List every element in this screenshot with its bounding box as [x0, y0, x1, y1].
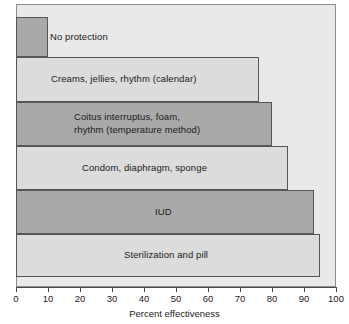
x-axis-tick-label: 30 [107, 293, 118, 304]
bar-label: Condom, diaphragm, sponge [82, 162, 207, 175]
bar-chart-figure: No protectionCreams, jellies, rhythm (ca… [0, 0, 349, 324]
x-axis-tick-label: 80 [267, 293, 278, 304]
x-axis-tick-label: 100 [328, 293, 344, 304]
x-axis-tick [48, 287, 49, 292]
bars-layer: No protectionCreams, jellies, rhythm (ca… [0, 0, 349, 324]
x-axis-tick-label: 40 [139, 293, 150, 304]
x-axis-tick [16, 287, 17, 292]
x-axis-tick [208, 287, 209, 292]
x-axis-tick [240, 287, 241, 292]
x-axis-tick [176, 287, 177, 292]
bar-label: Coitus interruptus, foam, rhythm (temper… [74, 111, 200, 136]
x-axis-tick-label: 20 [75, 293, 86, 304]
x-axis-tick-label: 0 [13, 293, 18, 304]
bar-label: IUD [155, 206, 172, 219]
x-axis-tick [112, 287, 113, 292]
bar-label: Creams, jellies, rhythm (calendar) [51, 73, 196, 86]
bar-label: No protection [50, 31, 108, 44]
x-axis-tick-label: 10 [43, 293, 54, 304]
x-axis-tick [80, 287, 81, 292]
x-axis-tick [272, 287, 273, 292]
bar [16, 17, 48, 57]
x-axis-tick-label: 50 [171, 293, 182, 304]
x-axis-tick [144, 287, 145, 292]
x-axis-tick [336, 287, 337, 292]
bar-label: Sterilization and pill [124, 249, 208, 262]
x-axis-title: Percent effectiveness [0, 308, 349, 319]
x-axis-tick [304, 287, 305, 292]
x-axis-tick-label: 70 [235, 293, 246, 304]
x-axis-tick-label: 60 [203, 293, 214, 304]
x-axis-tick-label: 90 [299, 293, 310, 304]
